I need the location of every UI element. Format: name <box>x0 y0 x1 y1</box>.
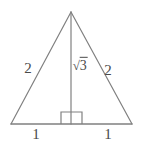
label-right-base: 1 <box>104 127 112 142</box>
label-left-base: 1 <box>32 127 40 142</box>
geometry-figure: 2 2 √3 1 1 <box>0 0 141 144</box>
label-right-leg: 2 <box>104 63 112 78</box>
triangle-left-leg <box>11 12 71 124</box>
triangle-diagram-svg <box>0 0 141 144</box>
label-radicand: 3 <box>79 57 87 73</box>
label-altitude-sqrt3: √3 <box>73 59 88 73</box>
label-left-leg: 2 <box>24 61 32 76</box>
